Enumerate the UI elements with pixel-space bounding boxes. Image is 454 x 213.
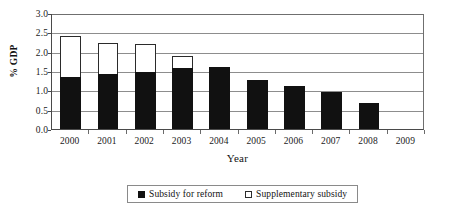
bar-2000 <box>60 36 81 129</box>
bar-chart: % GDP 0.00.51.01.52.02.53.0 200020012002… <box>0 0 454 213</box>
x-axis-tick-label: 2005 <box>246 136 265 146</box>
bar-segment-subsidy-for-reform <box>209 67 230 129</box>
x-axis-tick-mark <box>200 130 201 134</box>
legend-entry-1: Subsidy for reform <box>138 189 223 199</box>
bar-segment-supplementary-subsidy <box>172 56 193 69</box>
y-axis-tick-label: 0.0 <box>2 125 48 135</box>
x-axis-tick-mark <box>424 130 425 134</box>
bar-segment-supplementary-subsidy <box>60 36 81 77</box>
filled-square-icon <box>138 191 145 198</box>
x-axis-tick-mark <box>349 130 350 134</box>
plot-area <box>51 14 424 130</box>
y-axis-tick-label: 0.5 <box>2 106 48 116</box>
y-axis-tick-label: 2.5 <box>2 28 48 38</box>
x-axis-tick-mark <box>387 130 388 134</box>
bar-2007 <box>321 92 342 129</box>
gridline <box>52 33 423 34</box>
bar-2002 <box>135 44 156 129</box>
x-axis-ticks: 2000200120022003200420052006200720082009 <box>51 130 424 152</box>
x-axis-tick-label: 2002 <box>135 136 154 146</box>
x-axis-tick-mark <box>126 130 127 134</box>
x-axis-tick-mark <box>312 130 313 134</box>
bar-segment-subsidy-for-reform <box>284 86 305 129</box>
y-axis-ticks: 0.00.51.01.52.02.53.0 <box>0 14 48 130</box>
x-axis-tick-label: 2008 <box>358 136 377 146</box>
bar-segment-subsidy-for-reform <box>247 80 268 129</box>
x-axis-tick-mark <box>275 130 276 134</box>
y-axis-tick-label: 3.0 <box>2 9 48 19</box>
bar-segment-subsidy-for-reform <box>98 74 119 129</box>
legend-label: Subsidy for reform <box>149 189 223 199</box>
bar-2001 <box>98 43 119 129</box>
bar-segment-subsidy-for-reform <box>172 68 193 129</box>
hollow-square-icon <box>245 191 252 198</box>
x-axis-tick-label: 2006 <box>284 136 303 146</box>
legend-label: Supplementary subsidy <box>256 189 347 199</box>
x-axis-tick-label: 2003 <box>172 136 191 146</box>
x-axis-title: Year <box>51 152 424 164</box>
x-axis-tick-label: 2001 <box>97 136 116 146</box>
bar-2003 <box>172 56 193 129</box>
y-axis-tick-label: 1.0 <box>2 86 48 96</box>
y-axis-tick-label: 2.0 <box>2 48 48 58</box>
bar-2004 <box>209 67 230 129</box>
bar-segment-supplementary-subsidy <box>98 43 119 74</box>
x-axis-tick-label: 2009 <box>396 136 415 146</box>
x-axis-tick-label: 2000 <box>60 136 79 146</box>
chart-legend: Subsidy for reformSupplementary subsidy <box>127 185 358 203</box>
x-axis-tick-mark <box>238 130 239 134</box>
gridline <box>52 14 423 15</box>
bar-segment-subsidy-for-reform <box>135 72 156 129</box>
bar-segment-subsidy-for-reform <box>60 77 81 129</box>
x-axis-tick-label: 2004 <box>209 136 228 146</box>
bar-2006 <box>284 86 305 129</box>
bar-2008 <box>359 103 380 129</box>
x-axis-tick-label: 2007 <box>321 136 340 146</box>
legend-entry-2: Supplementary subsidy <box>245 189 347 199</box>
x-axis-tick-mark <box>163 130 164 134</box>
bar-segment-supplementary-subsidy <box>135 44 156 72</box>
bar-segment-subsidy-for-reform <box>321 92 342 129</box>
y-axis-tick-label: 1.5 <box>2 67 48 77</box>
bar-segment-subsidy-for-reform <box>359 103 380 129</box>
x-axis-tick-mark <box>88 130 89 134</box>
bar-2005 <box>247 80 268 129</box>
